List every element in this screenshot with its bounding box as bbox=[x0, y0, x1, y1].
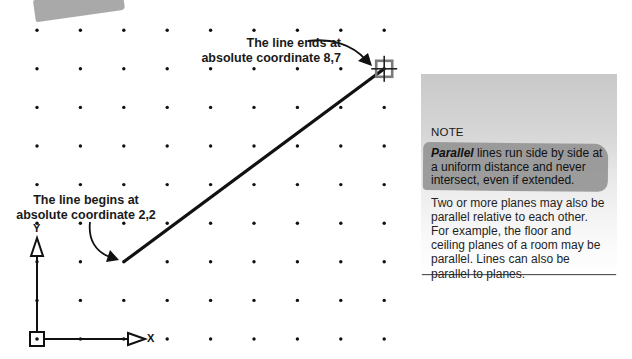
grid-dot bbox=[166, 29, 169, 32]
grid-dot bbox=[252, 183, 255, 186]
grid-dot bbox=[339, 260, 342, 263]
grid-dot bbox=[209, 337, 212, 340]
grid-dot bbox=[339, 299, 342, 302]
grid-dot bbox=[209, 222, 212, 225]
grid-dot bbox=[209, 106, 212, 109]
grid-dot bbox=[252, 29, 255, 32]
grid-dot bbox=[252, 67, 255, 70]
note-body: Two or more planes may also be parallel … bbox=[431, 196, 607, 281]
grid-dot bbox=[339, 337, 342, 340]
grid-dot bbox=[252, 144, 255, 147]
grid-dot bbox=[339, 106, 342, 109]
grid-dot bbox=[79, 183, 82, 186]
note-title: NOTE bbox=[431, 126, 607, 138]
grid-dot bbox=[383, 299, 386, 302]
grid-dot bbox=[166, 106, 169, 109]
grid-dot bbox=[35, 183, 38, 186]
grid-dot bbox=[252, 222, 255, 225]
grid-dot bbox=[209, 299, 212, 302]
ucs-origin-square-icon bbox=[30, 332, 44, 346]
grid-dot bbox=[296, 144, 299, 147]
grid-dot bbox=[252, 337, 255, 340]
grid-dot bbox=[79, 260, 82, 263]
grid-dots bbox=[35, 29, 386, 341]
grid-dot bbox=[209, 29, 212, 32]
grid-dot bbox=[339, 67, 342, 70]
x-axis-label: X bbox=[147, 332, 154, 344]
grid-dot bbox=[166, 222, 169, 225]
grid-dot bbox=[209, 183, 212, 186]
grid-dot bbox=[339, 29, 342, 32]
grid-dot bbox=[383, 106, 386, 109]
grid-dot bbox=[35, 29, 38, 32]
grid-dot bbox=[166, 67, 169, 70]
grid-dot bbox=[383, 222, 386, 225]
grid-dot bbox=[296, 183, 299, 186]
grid-dot bbox=[296, 106, 299, 109]
callout-start-label: The line begins at absolute coordinate 2… bbox=[6, 193, 166, 223]
grid-dot bbox=[166, 144, 169, 147]
crosshair-square-icon bbox=[371, 56, 397, 82]
grid-dot bbox=[252, 260, 255, 263]
callout-end-line2: absolute coordinate 8,7 bbox=[168, 51, 341, 66]
grid-dot bbox=[296, 260, 299, 263]
grid-dot bbox=[79, 67, 82, 70]
grid-dot bbox=[296, 67, 299, 70]
grid-dot bbox=[79, 299, 82, 302]
grid-dot bbox=[166, 260, 169, 263]
hollow-triangle-arrow-icon bbox=[31, 238, 43, 256]
grid-dot bbox=[383, 29, 386, 32]
callout-end-line1: The line ends at bbox=[168, 36, 341, 51]
grid-dot bbox=[166, 183, 169, 186]
grid-dot bbox=[296, 337, 299, 340]
grid-dot bbox=[296, 299, 299, 302]
callout-arrow-start bbox=[90, 222, 119, 262]
grid-dot bbox=[296, 222, 299, 225]
grid-dot bbox=[79, 144, 82, 147]
grid-dot bbox=[122, 106, 125, 109]
grid-dot bbox=[209, 260, 212, 263]
grid-dot bbox=[122, 144, 125, 147]
grid-dot bbox=[166, 299, 169, 302]
grid-dot bbox=[339, 144, 342, 147]
grid-dot bbox=[383, 183, 386, 186]
grid-dot bbox=[122, 29, 125, 32]
grid-dot bbox=[339, 183, 342, 186]
grid-dot bbox=[383, 144, 386, 147]
note-box: NOTE Parallel lines run side by side at … bbox=[421, 74, 617, 274]
grid-dot bbox=[79, 106, 82, 109]
grid-dot bbox=[209, 144, 212, 147]
y-axis-label: Y bbox=[33, 222, 40, 234]
grid-dot bbox=[296, 29, 299, 32]
grid-dot bbox=[122, 299, 125, 302]
grid-dot bbox=[252, 106, 255, 109]
grid-dot bbox=[383, 260, 386, 263]
grid-dot bbox=[79, 29, 82, 32]
note-definition-block: Parallel lines run side by side at a uni… bbox=[431, 147, 607, 188]
callout-end-label: The line ends at absolute coordinate 8,7 bbox=[168, 36, 341, 66]
y-axis bbox=[31, 238, 43, 332]
grid-dot bbox=[35, 106, 38, 109]
coordinate-line bbox=[124, 69, 384, 262]
grid-dot bbox=[35, 67, 38, 70]
callout-start-line2: absolute coordinate 2,2 bbox=[6, 208, 166, 223]
grid-dot bbox=[339, 222, 342, 225]
callout-start-line1: The line begins at bbox=[6, 193, 166, 208]
grid-dot bbox=[166, 337, 169, 340]
grid-dot bbox=[122, 67, 125, 70]
note-definition-term: Parallel bbox=[431, 146, 474, 160]
grid-dot bbox=[252, 299, 255, 302]
grid-dot bbox=[383, 337, 386, 340]
hollow-triangle-arrow-icon bbox=[128, 333, 145, 345]
note-definition: Parallel lines run side by side at a uni… bbox=[431, 147, 607, 188]
x-axis bbox=[44, 333, 145, 345]
grid-dot bbox=[209, 67, 212, 70]
grid-dot bbox=[122, 183, 125, 186]
grid-dot bbox=[35, 144, 38, 147]
